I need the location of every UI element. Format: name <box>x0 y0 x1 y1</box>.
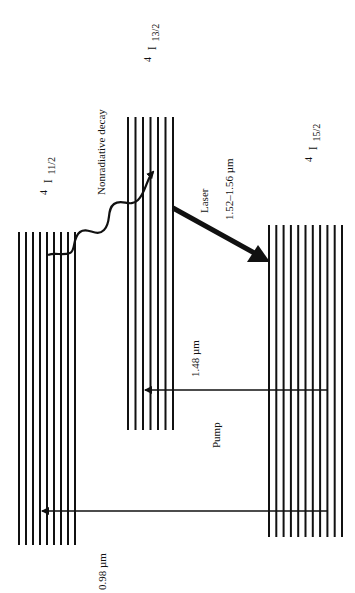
diagram-canvas <box>0 0 355 593</box>
laser-label: Laser <box>198 189 210 213</box>
level-sup: 4 <box>303 157 314 162</box>
level-symbol: I <box>41 179 55 183</box>
level-sub: 11/2 <box>46 157 57 174</box>
laser-arrow <box>173 208 270 262</box>
energy-level-diagram: 4 I 11/2 4 I 13/2 4 I 15/2 Nonradiative … <box>0 0 355 593</box>
level-sub: 15/2 <box>311 124 322 142</box>
level-symbol: I <box>306 146 320 150</box>
level-label-4I13-2: 4 I 13/2 <box>142 24 161 62</box>
level-sup: 4 <box>38 190 49 195</box>
level-label-4I11-2: 4 I 11/2 <box>38 157 57 195</box>
level-label-4I15-2: 4 I 15/2 <box>303 124 322 162</box>
nonradiative-decay-label: Nonradiative decay <box>95 109 107 195</box>
level-4I11-2-lines <box>19 232 75 545</box>
pump-098-label: 0.98 µm <box>96 553 108 590</box>
laser-wavelength-label: 1.52–1.56 µm <box>223 158 235 220</box>
level-4I15-2-lines <box>269 225 342 537</box>
level-4I13-2-lines <box>128 117 173 430</box>
level-sup: 4 <box>142 57 153 62</box>
pump-148-label: 1.48 µm <box>189 340 201 377</box>
pump-label: Pump <box>210 422 222 448</box>
level-sub: 13/2 <box>150 24 161 42</box>
level-symbol: I <box>145 46 159 50</box>
